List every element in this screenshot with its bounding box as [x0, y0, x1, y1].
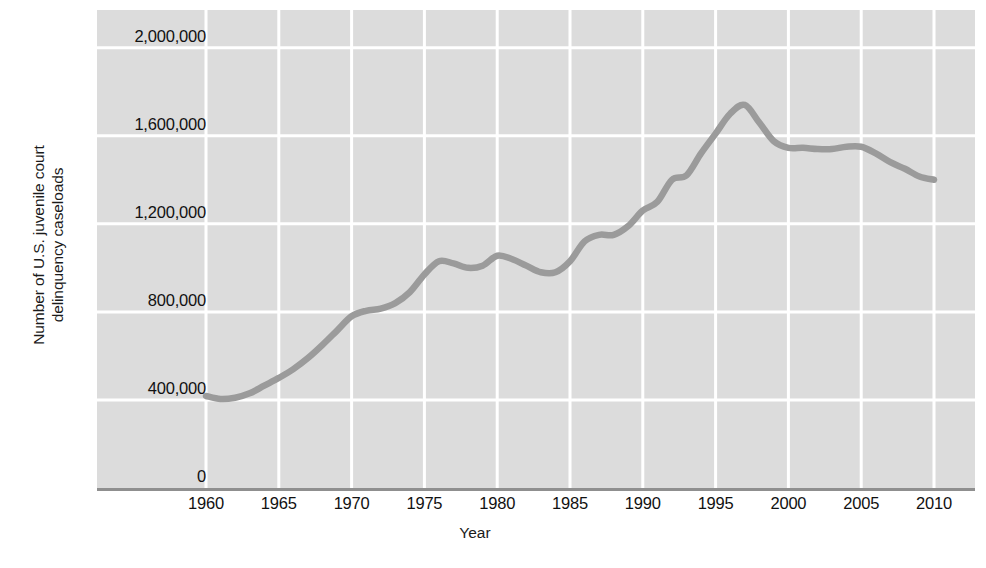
x-tick-label: 1960 [188, 494, 224, 513]
x-tick-label: 1980 [479, 494, 515, 513]
x-tick-label: 1965 [261, 494, 297, 513]
y-tick-label: 1,200,000 [100, 203, 206, 222]
y-axis-title: Number of U.S. juvenile court delinquenc… [0, 0, 96, 490]
x-tick-label: 1990 [625, 494, 661, 513]
x-tick-label: 1985 [552, 494, 588, 513]
y-tick-label: 400,000 [100, 379, 206, 398]
horizontal-gridlines [97, 48, 975, 400]
y-tick-label: 800,000 [100, 291, 206, 310]
x-axis-title: Year [0, 524, 986, 542]
x-tick-label: 1975 [406, 494, 442, 513]
x-tick-label: 1995 [698, 494, 734, 513]
plot-area: 0400,000800,0001,200,0001,600,0002,000,0… [97, 10, 975, 488]
chart-figure: Number of U.S. juvenile court delinquenc… [0, 0, 986, 568]
x-tick-label: 2010 [916, 494, 952, 513]
x-axis-line [97, 488, 975, 491]
chart-canvas [97, 10, 975, 488]
x-axis-title-text: Year [459, 524, 490, 541]
y-axis-title-line1: Number of U.S. juvenile court [30, 145, 47, 345]
vertical-gridlines [206, 10, 934, 488]
x-tick-label: 1970 [334, 494, 370, 513]
y-axis-title-line2: delinquency caseloads [48, 145, 67, 345]
y-tick-label-column: 0400,000800,0001,200,0001,600,0002,000,0… [97, 10, 206, 488]
x-tick-label: 2005 [843, 494, 879, 513]
y-tick-label: 2,000,000 [100, 27, 206, 46]
y-axis-title-text: Number of U.S. juvenile court delinquenc… [29, 145, 67, 345]
x-tick-label: 2000 [770, 494, 806, 513]
y-tick-label: 0 [100, 467, 206, 486]
x-tick-labels: 1960196519701975198019851990199520002005… [0, 494, 986, 518]
y-tick-label: 1,600,000 [100, 115, 206, 134]
